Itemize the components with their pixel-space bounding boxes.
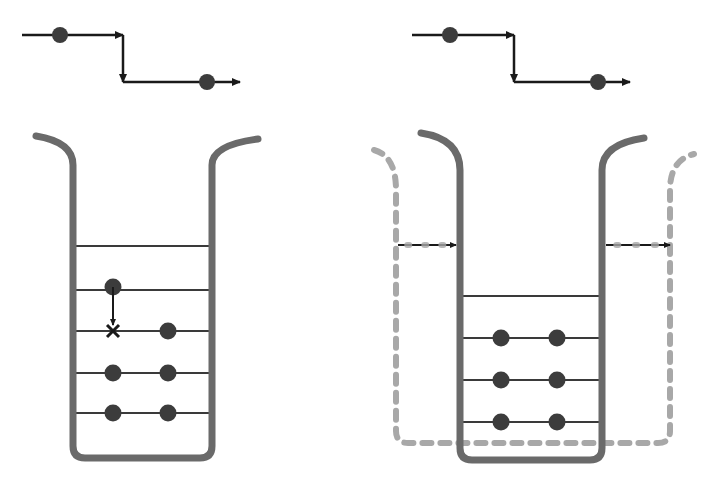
particle-dot — [160, 323, 177, 340]
panel-right-well — [374, 27, 694, 460]
step-arrow-icon — [412, 27, 630, 90]
dash-segment — [421, 242, 429, 248]
particle-dot — [549, 330, 566, 347]
energy-well-diagram — [0, 0, 719, 492]
particle-dot — [549, 372, 566, 389]
particle-dot — [590, 74, 606, 90]
step-arrow-icon — [22, 27, 240, 90]
particle-dot — [493, 330, 510, 347]
dash-segment — [404, 242, 412, 248]
panel-left-well — [22, 27, 258, 458]
particle-dot — [105, 405, 122, 422]
particle-dot — [493, 372, 510, 389]
diagram-canvas — [0, 0, 719, 492]
particle-dot — [493, 414, 510, 431]
particle-dot — [160, 365, 177, 382]
particle-dot — [105, 365, 122, 382]
particle-dot — [52, 27, 68, 43]
particle-dot — [160, 405, 177, 422]
dash-segment — [651, 242, 659, 248]
dash-segment — [632, 242, 640, 248]
well-outline — [36, 136, 258, 458]
particle-dot — [549, 414, 566, 431]
particle-dot — [199, 74, 215, 90]
dash-segment — [438, 242, 446, 248]
particle-dot — [442, 27, 458, 43]
dash-segment — [613, 242, 621, 248]
